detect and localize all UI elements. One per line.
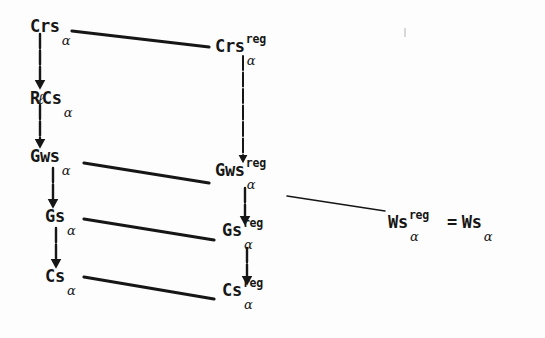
node-subscript: α [247,54,255,67]
node-crs-reg: Crsregα [215,38,245,55]
node-base-label: Cs [45,268,65,285]
node-base-label: Cs [222,282,242,299]
node-superscript: reg [243,278,263,290]
scan-speckle-top-right [404,28,406,37]
edge-e-gws-to-gwsreg [84,163,209,183]
node-base-label: Gws [215,162,245,179]
node-crs: Crsα [30,18,60,35]
node-ws-eq: Wsregα=Wsα [388,214,482,231]
node-cs: Csα [45,268,65,285]
node-base-label-2: Cs [42,90,62,107]
node-gws-reg: Gwsregα [215,162,245,179]
node-subscript: α [62,164,70,177]
diagram-edges-layer [0,0,545,338]
edge-e-cs-to-csreg [84,277,214,299]
node-rlcs: RℓCsα [30,90,62,107]
equals-sign: = [442,212,462,232]
node-superscript: reg [246,158,266,170]
node-subscript: α [67,224,75,237]
node-superscript: reg [409,210,429,222]
node-base-label: Gs [222,222,242,239]
node-subscript: α [64,106,72,119]
node-subscript-right: α [484,230,492,243]
edge-e-gs-to-gsreg [84,219,214,240]
node-base-label-right: Ws [462,214,482,231]
node-gws: Gwsα [30,148,60,165]
node-base-label: Crs [30,18,60,35]
edge-e-gwsreg-to-wsreg [287,196,385,211]
node-subscript: α [247,178,255,191]
node-subscript: α [67,284,75,297]
node-base-label: Gws [30,148,60,165]
node-gs: Gsα [45,208,65,225]
node-subscript: α [244,298,252,311]
node-subscript: α [410,230,418,243]
node-subscript: α [62,34,70,47]
node-base-label: Gs [45,208,65,225]
edge-e-crs-to-crsreg [72,31,209,47]
node-cs-reg: Csregα [222,282,242,299]
node-gs-reg: Gsregα [222,222,242,239]
diagram-canvas: CrsαRℓCsαGwsαGsαCsαCrsregαGwsregαGsregαC… [0,0,545,338]
node-superscript: reg [243,218,263,230]
node-subscript: α [244,238,252,251]
node-superscript: reg [246,34,266,46]
node-base-label: Ws [388,214,408,231]
node-base-label: Crs [215,38,245,55]
